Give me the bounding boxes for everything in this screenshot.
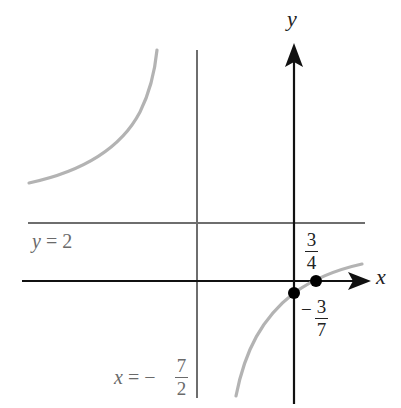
va-fraction: 7 2 — [175, 356, 188, 398]
y-intercept-sign: − — [301, 299, 312, 321]
x-axis-label: x — [376, 264, 386, 290]
yint-denominator: 7 — [317, 320, 327, 339]
curve-right-branch — [236, 264, 362, 396]
y-axis-label: y — [287, 6, 297, 32]
horizontal-asymptote-label: y = 2 — [32, 230, 72, 253]
vertical-asymptote-label: x = − — [114, 366, 155, 389]
va-denominator: 2 — [177, 379, 187, 398]
va-numerator: 7 — [177, 356, 187, 375]
curve-left-branch — [29, 50, 157, 183]
x-intercept-label: 3 4 — [305, 230, 318, 272]
y-intercept-label: 3 7 — [315, 297, 328, 339]
ha-equation: = 2 — [46, 230, 72, 252]
rational-function-graph — [0, 0, 401, 408]
yint-numerator: 3 — [317, 297, 327, 316]
xint-numerator: 3 — [307, 230, 317, 249]
ha-variable: y — [32, 230, 41, 252]
xint-denominator: 4 — [307, 253, 317, 272]
x-intercept-point — [310, 275, 322, 287]
y-intercept-point — [288, 287, 300, 299]
va-variable: x — [114, 366, 123, 388]
va-equation: = − — [128, 366, 156, 388]
